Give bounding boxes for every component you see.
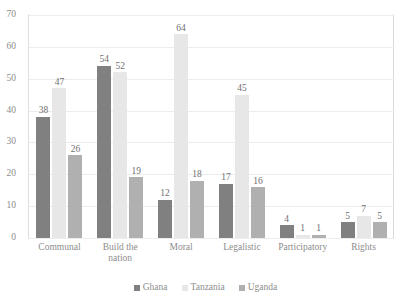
bar-value-label: 16 <box>253 177 263 187</box>
bar-uganda[interactable]: 19 <box>129 177 143 238</box>
bar-slot: 54 <box>97 15 111 238</box>
bar-ghana[interactable]: 54 <box>97 66 111 238</box>
x-axis-category-label: Legalistic <box>211 242 272 264</box>
bar-group: 384726 <box>29 15 90 238</box>
bar-tanzania[interactable]: 45 <box>235 95 249 238</box>
bar-ghana[interactable]: 5 <box>341 222 355 238</box>
bar-slot: 17 <box>219 15 233 238</box>
bar-tanzania[interactable]: 52 <box>113 72 127 238</box>
gridline <box>29 238 394 239</box>
bar-slot: 64 <box>174 15 188 238</box>
bar-group: 575 <box>333 15 394 238</box>
legend-label: Uganda <box>248 283 278 293</box>
bar-value-label: 12 <box>160 189 170 199</box>
bar-slot: 18 <box>190 15 204 238</box>
legend-swatch-icon <box>239 285 245 291</box>
bar-slot: 1 <box>312 15 326 238</box>
bar-value-label: 45 <box>237 84 247 94</box>
bar-uganda[interactable]: 18 <box>190 181 204 238</box>
bar-value-label: 26 <box>71 145 81 155</box>
y-axis-tick-label: 40 <box>0 106 16 116</box>
bar-slot: 5 <box>373 15 387 238</box>
bar-group: 411 <box>272 15 333 238</box>
bar-slot: 16 <box>251 15 265 238</box>
legend-label: Ghana <box>143 283 168 293</box>
bar-tanzania[interactable]: 64 <box>174 34 188 238</box>
x-axis-category-label: Rights <box>333 242 394 264</box>
bar-slot: 47 <box>52 15 66 238</box>
bar-slot: 38 <box>36 15 50 238</box>
bar-value-label: 47 <box>55 78 65 88</box>
bar-ghana[interactable]: 17 <box>219 184 233 238</box>
bar-ghana[interactable]: 38 <box>36 117 50 238</box>
bar-value-label: 54 <box>99 55 109 65</box>
bar-value-label: 7 <box>361 205 366 215</box>
bar-value-label: 19 <box>131 167 141 177</box>
bar-uganda[interactable]: 26 <box>68 155 82 238</box>
bar-value-label: 5 <box>345 212 350 222</box>
x-axis-category-label: Participatory <box>272 242 333 264</box>
x-axis-category-label: Moral <box>151 242 212 264</box>
bar-tanzania[interactable]: 1 <box>296 235 310 238</box>
bar-tanzania[interactable]: 47 <box>52 88 66 238</box>
bar-slot: 52 <box>113 15 127 238</box>
x-axis-category-label: Build the nation <box>90 242 151 264</box>
bar-uganda[interactable]: 1 <box>312 235 326 238</box>
bar-uganda[interactable]: 16 <box>251 187 265 238</box>
bar-slot: 1 <box>296 15 310 238</box>
bar-group: 126418 <box>151 15 212 238</box>
chart-legend: GhanaTanzaniaUganda <box>0 283 411 293</box>
bar-value-label: 17 <box>221 173 231 183</box>
bar-value-label: 5 <box>377 212 382 222</box>
bar-chart: 010203040506070 384726545219126418174516… <box>0 0 411 304</box>
y-axis-tick-label: 70 <box>0 10 16 20</box>
x-axis-category-label: Communal <box>29 242 90 264</box>
bar-value-label: 1 <box>300 224 305 234</box>
bar-value-label: 64 <box>176 24 186 34</box>
bar-group: 545219 <box>90 15 151 238</box>
y-axis-tick-label: 60 <box>0 42 16 52</box>
bar-ghana[interactable]: 12 <box>158 200 172 238</box>
y-axis-tick-label: 50 <box>0 74 16 84</box>
bar-slot: 5 <box>341 15 355 238</box>
bar-value-label: 38 <box>39 106 49 116</box>
bar-group: 174516 <box>211 15 272 238</box>
legend-item-uganda[interactable]: Uganda <box>239 283 278 293</box>
bar-groups: 384726545219126418174516411575 <box>29 15 394 238</box>
bar-slot: 45 <box>235 15 249 238</box>
bar-slot: 19 <box>129 15 143 238</box>
bar-ghana[interactable]: 4 <box>280 225 294 238</box>
bar-slot: 26 <box>68 15 82 238</box>
bar-value-label: 52 <box>115 62 125 72</box>
y-axis-tick-label: 30 <box>0 138 16 148</box>
bar-slot: 4 <box>280 15 294 238</box>
y-axis-tick-label: 10 <box>0 201 16 211</box>
bar-value-label: 18 <box>192 170 202 180</box>
bar-slot: 7 <box>357 15 371 238</box>
legend-item-ghana[interactable]: Ghana <box>134 283 168 293</box>
bar-value-label: 4 <box>284 215 289 225</box>
bar-slot: 12 <box>158 15 172 238</box>
bar-uganda[interactable]: 5 <box>373 222 387 238</box>
legend-swatch-icon <box>134 285 140 291</box>
legend-item-tanzania[interactable]: Tanzania <box>182 283 225 293</box>
x-axis-labels: CommunalBuild the nationMoralLegalisticP… <box>29 242 394 264</box>
bar-tanzania[interactable]: 7 <box>357 216 371 238</box>
y-axis-tick-label: 20 <box>0 170 16 180</box>
legend-swatch-icon <box>182 285 188 291</box>
legend-label: Tanzania <box>191 283 225 293</box>
bar-value-label: 1 <box>316 224 321 234</box>
y-axis-tick-label: 0 <box>0 233 16 243</box>
